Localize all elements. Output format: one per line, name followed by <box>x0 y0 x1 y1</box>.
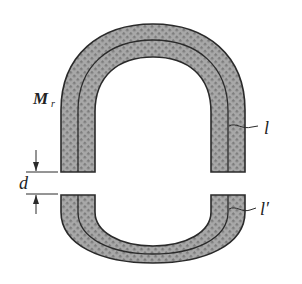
path-label-l-prime: l′ <box>260 199 270 219</box>
lower-yoke <box>61 195 245 263</box>
magnet-label: M <box>32 89 49 108</box>
upper-yoke <box>61 24 245 172</box>
magnet-subscript: r <box>51 98 55 109</box>
gap-arrow-bottom-head <box>33 195 39 204</box>
gap-label-d: d <box>19 173 29 193</box>
gap-arrow-top-head <box>33 162 39 171</box>
magnet-diagram: M r l d l′ <box>0 0 302 284</box>
path-label-l: l <box>264 118 269 138</box>
